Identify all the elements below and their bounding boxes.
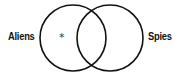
- spies-label: Spies: [148, 30, 172, 42]
- spies-circle: [77, 5, 143, 71]
- asterisk-marker: *: [59, 31, 65, 44]
- aliens-circle: [40, 5, 106, 71]
- aliens-label: Aliens: [8, 30, 35, 42]
